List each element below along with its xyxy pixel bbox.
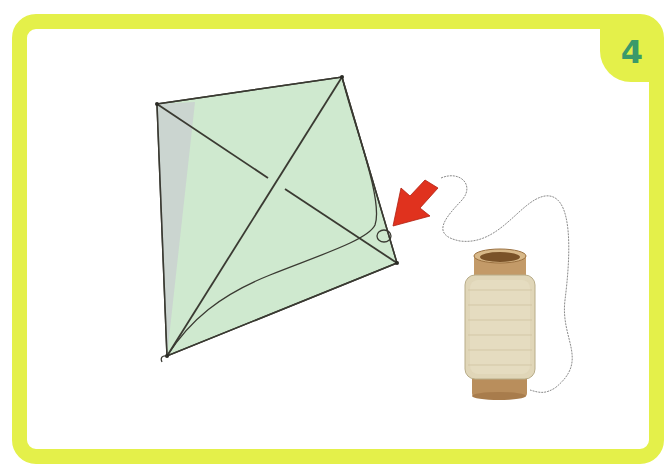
red-arrow-icon xyxy=(393,180,438,226)
kite xyxy=(155,75,399,362)
string-spool xyxy=(465,249,535,400)
